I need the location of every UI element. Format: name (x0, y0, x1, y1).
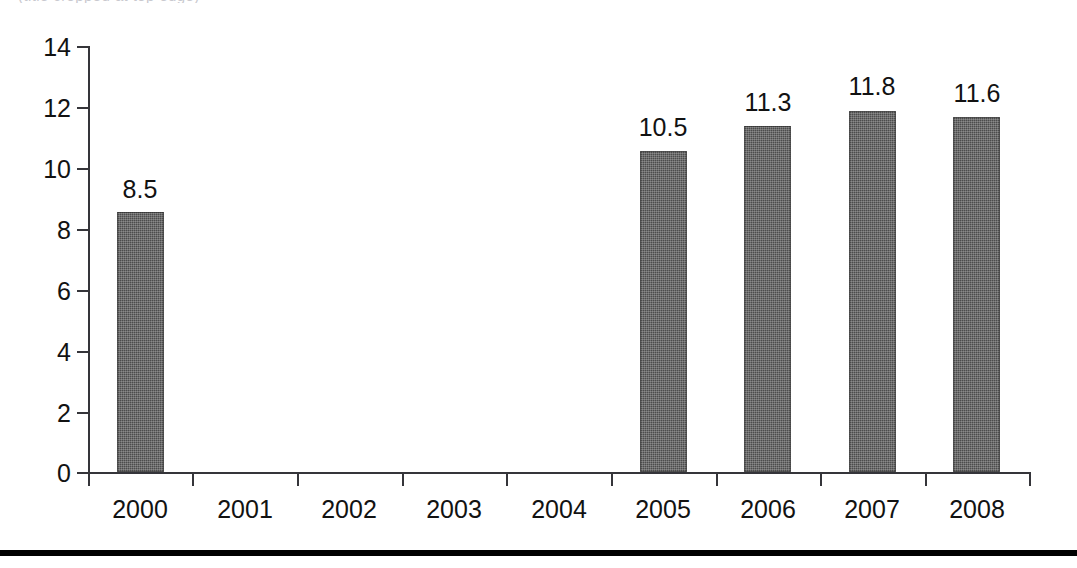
bar-2000[interactable] (117, 212, 164, 472)
y-tick-4 (77, 351, 88, 353)
bar-value-2005: 10.5 (608, 114, 718, 140)
y-axis-label-10: 10 (11, 157, 71, 182)
y-axis-label-14: 14 (11, 35, 71, 60)
y-tick-0 (77, 472, 88, 474)
bar-2005[interactable] (640, 151, 687, 472)
y-tick-2 (77, 412, 88, 414)
y-axis-label-8: 8 (11, 218, 71, 243)
x-tick-boundary-6 (716, 474, 718, 486)
x-tick-boundary-8 (925, 474, 927, 486)
y-tick-14 (77, 46, 88, 48)
chart-page: (title cropped at top edge) 14 12 10 8 6… (0, 0, 1077, 568)
bar-value-2008: 11.6 (922, 80, 1032, 106)
y-axis-label-4: 4 (11, 340, 71, 365)
x-tick-boundary-7 (820, 474, 822, 486)
y-tick-8 (77, 229, 88, 231)
y-tick-6 (77, 290, 88, 292)
x-axis-label-2003: 2003 (399, 495, 509, 523)
y-axis-line (88, 46, 90, 474)
y-axis-label-6: 6 (11, 279, 71, 304)
bar-value-2000: 8.5 (85, 176, 195, 202)
x-tick-boundary-2 (297, 474, 299, 486)
x-axis-label-2001: 2001 (190, 495, 300, 523)
x-tick-boundary-0 (88, 474, 90, 486)
y-tick-10 (77, 168, 88, 170)
x-axis-label-2004: 2004 (504, 495, 614, 523)
bar-2008[interactable] (953, 117, 1000, 472)
y-tick-12 (77, 107, 88, 109)
y-axis-label-0: 0 (11, 461, 71, 486)
x-tick-boundary-9 (1029, 474, 1031, 486)
bar-value-2006: 11.3 (713, 89, 823, 115)
bar-2006[interactable] (744, 126, 791, 472)
x-axis-label-2000: 2000 (85, 495, 195, 523)
x-axis-label-2006: 2006 (713, 495, 823, 523)
bar-chart-plot-area: 14 12 10 8 6 4 2 0 8.5 10.5 11.3 11.8 11… (0, 0, 1077, 530)
x-tick-boundary-1 (192, 474, 194, 486)
x-tick-boundary-4 (506, 474, 508, 486)
y-axis-label-2: 2 (11, 401, 71, 426)
x-axis-line (88, 472, 1030, 474)
bottom-horizontal-rule (0, 550, 1077, 556)
x-axis-label-2008: 2008 (922, 495, 1032, 523)
x-tick-boundary-5 (611, 474, 613, 486)
bar-2007[interactable] (849, 111, 896, 472)
x-axis-label-2005: 2005 (608, 495, 718, 523)
x-axis-label-2007: 2007 (817, 495, 927, 523)
x-axis-label-2002: 2002 (294, 495, 404, 523)
y-axis-label-12: 12 (11, 96, 71, 121)
x-tick-boundary-3 (402, 474, 404, 486)
bar-value-2007: 11.8 (817, 73, 927, 99)
